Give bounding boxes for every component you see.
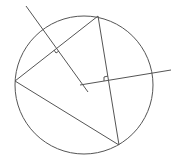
- geometry-diagram: [0, 0, 179, 165]
- circumcircle: [15, 16, 153, 154]
- inscribed-triangle: [15, 16, 119, 145]
- perpendicular-bisector-top-bottom: [80, 70, 171, 85]
- perpendicular-bisector-left-top: [26, 6, 88, 92]
